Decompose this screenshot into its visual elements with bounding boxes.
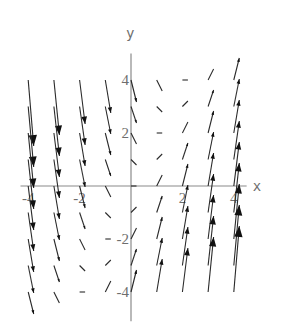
vector-arrow [80,239,86,250]
arrowhead-icon [31,266,35,272]
vector-arrow [131,160,137,166]
vector-arrow [131,107,137,124]
arrowhead-icon [134,98,137,102]
arrowhead-icon [236,100,240,106]
arrowhead-icon [134,249,136,252]
vector-arrow [80,133,87,166]
vector-arrow [54,292,60,303]
vector-arrow [208,90,214,107]
arrowhead-icon [108,151,111,155]
arrowhead-icon [186,164,189,168]
arrowhead-icon [160,217,163,221]
vector-arrow [105,133,111,155]
y-tick-label: 2 [122,125,130,141]
vector-arrow [80,266,86,272]
vector-arrow [28,292,34,314]
vector-arrow [28,239,35,272]
vector-arrow [208,237,216,292]
vector-arrow [208,69,214,80]
arrowhead-icon [160,196,162,199]
vector-arrow [157,107,163,113]
vector-arrow [234,58,240,80]
vector-arrow [105,160,111,177]
arrowhead-icon [56,191,61,198]
arrowhead-icon [237,58,240,62]
vector-arrow [182,143,188,160]
vector-arrow [131,133,137,144]
vector-arrow [157,259,164,292]
arrowhead-icon [212,90,214,93]
arrowhead-icon [30,244,35,251]
arrowhead-icon [211,153,215,159]
vector-arrow [28,80,37,146]
vector-arrow [105,186,111,197]
arrowhead-icon [29,156,37,167]
vector-arrow [54,239,60,261]
arrowhead-icon [82,138,87,145]
vector-arrow [105,213,111,219]
arrowhead-icon [159,259,163,265]
x-axis-label: x [253,178,261,194]
vector-field-plot: x y -4-22442-2-4 [0,0,282,333]
vector-arrow [182,206,189,239]
y-tick-label: -4 [117,284,130,300]
arrowhead-icon [109,173,111,176]
arrowhead-icon [186,143,188,146]
vector-arrow [234,226,243,292]
vector-arrow [131,270,137,292]
vector-arrow [131,228,137,239]
vector-arrow [105,281,111,292]
y-tick-label: -2 [117,231,130,247]
arrowhead-icon [210,174,215,181]
vector-arrow [131,80,137,102]
vector-arrow [208,111,214,133]
arrowhead-icon [236,121,241,128]
arrowhead-icon [83,226,85,229]
vector-arrow [208,153,215,186]
vector-arrow [131,207,137,213]
y-axis-label: y [126,25,134,41]
vector-arrow [131,249,137,266]
arrowhead-icon [56,213,60,219]
axes: x y [20,25,261,322]
vector-arrow [182,122,188,133]
arrowhead-icon [234,205,242,216]
arrowhead-icon [185,206,189,212]
arrowhead-icon [57,279,59,282]
vector-arrow [157,196,163,213]
arrowhead-icon [31,310,34,314]
arrowhead-icon [108,107,112,113]
arrowhead-icon [134,270,137,274]
arrowhead-icon [211,111,214,115]
vector-arrow [157,217,163,239]
arrowhead-icon [57,257,60,261]
vector-arrow [182,101,188,107]
vector-arrow [157,175,163,186]
vector-arrow [234,100,241,133]
arrowhead-icon [134,120,136,123]
vector-arrow [157,80,163,91]
vector-arrow [54,186,61,219]
vector-arrow [157,154,163,160]
y-tick-label: 4 [122,72,130,88]
arrowhead-icon [184,227,189,234]
vector-arrow [105,80,112,113]
vector-arrow [54,266,60,283]
arrowhead-icon [82,160,86,166]
vector-arrow [105,260,111,266]
vector-arrow [182,164,188,186]
vector-arrow [80,213,86,230]
vector-arrow [54,80,62,135]
